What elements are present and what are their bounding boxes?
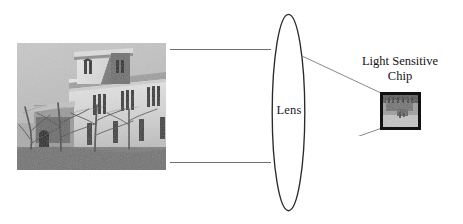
chip-label-line-1: Light Sensitive [340,54,460,69]
camera-optics-diagram: Lens Light Sensitive Chip [0,0,463,224]
chip-label-line-2: Chip [340,69,460,84]
building-photograph [17,43,166,170]
object-ray-bottom [170,162,271,163]
object-ray-top [170,49,271,50]
chip-label: Light Sensitive Chip [340,54,460,83]
light-sensitive-chip [380,92,421,130]
